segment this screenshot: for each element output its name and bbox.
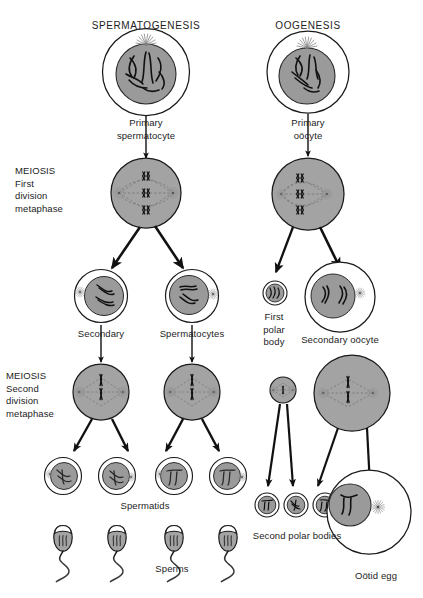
- meiosis-diagram-svg: [0, 0, 423, 598]
- cell-secondary-spermatocyte-right: [166, 270, 219, 323]
- arrow-polar-body-split-2: [287, 404, 293, 486]
- cell-second-polar-body-1: [255, 493, 279, 517]
- label-primary-spermatocyte: Primary spermatocyte: [117, 117, 175, 142]
- arrow-meiosis2-male-r2: [202, 419, 219, 451]
- label-spermatocytes: Spermatocytes: [160, 328, 225, 341]
- label-first-polar-body: First polar body: [263, 311, 285, 349]
- arrow-meiosis2-male-r1: [166, 419, 183, 451]
- label-ootid-egg: Oötid egg: [355, 570, 397, 583]
- arrow-meiosis1-male-right: [155, 226, 183, 268]
- cell-meiosis-second-division-polar-body: [270, 377, 297, 403]
- cell-meiosis-first-division-male: [111, 158, 181, 228]
- cell-meiosis-second-division-male-left: [73, 364, 129, 420]
- cell-secondary-oocyte: [305, 262, 375, 332]
- arrow-meiosis2-male-l1: [74, 419, 92, 451]
- cell-spermatid-4: [210, 458, 247, 495]
- arrow-meiosis2-female-to-polar-body: [318, 428, 338, 486]
- cell-primary-spermatocyte: [103, 29, 190, 116]
- label-secondary: Secondary: [78, 328, 124, 341]
- cell-sperm-2: [108, 526, 126, 582]
- label-meiosis-second-division: MEIOSIS Second division metaphase: [6, 370, 54, 420]
- cell-sperm-4: [219, 526, 237, 582]
- label-meiosis-first-division: MEIOSIS First division metaphase: [15, 165, 63, 215]
- label-spermatids: Spermatids: [120, 500, 169, 513]
- cell-secondary-spermatocyte-left: [75, 270, 128, 323]
- column-title-oogenesis: OOGENESIS: [275, 20, 340, 33]
- cell-meiosis-second-division-female: [314, 355, 390, 431]
- label-sperms: Sperms: [155, 563, 188, 576]
- cell-sperm-1: [54, 526, 72, 582]
- cell-first-polar-body: [263, 281, 287, 305]
- cell-meiosis-second-division-male-right: [164, 364, 220, 420]
- cell-spermatid-1: [45, 458, 82, 495]
- cell-second-polar-body-2: [284, 493, 308, 517]
- cell-spermatid-2: [99, 458, 136, 495]
- figure-canvas: SPERMATOGENESIS OOGENESIS Primary sperma…: [0, 0, 423, 598]
- label-primary-oocyte: Primary oöcyte: [291, 117, 324, 142]
- arrow-meiosis1-female-to-polar-body: [276, 227, 293, 272]
- cell-meiosis-first-division-female: [272, 158, 344, 230]
- cell-spermatid-3: [156, 458, 193, 495]
- label-secondary-oocyte: Secondary oöcyte: [301, 334, 379, 347]
- arrow-meiosis2-male-l2: [112, 419, 128, 451]
- arrow-polar-body-split-1: [268, 404, 280, 486]
- label-second-polar-bodies: Second polar bodies: [253, 530, 342, 543]
- cell-primary-oocyte: [267, 31, 349, 113]
- arrow-meiosis1-male-left: [112, 227, 140, 268]
- column-title-spermatogenesis: SPERMATOGENESIS: [92, 20, 201, 33]
